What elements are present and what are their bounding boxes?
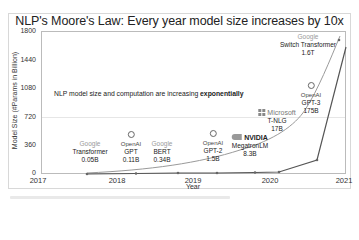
google-logo-icon: Google [280,33,336,41]
annotation-transformer: Google Transformer 0.05B [72,140,107,164]
annotation-gpt2: OpenAI GPT-2 1.5B [203,130,223,163]
nvidia-logo-icon [232,134,242,140]
annotation-bert: Google BERT 0.34B [152,140,173,164]
blurred-caption [10,196,230,199]
google-logo-icon: Google [152,140,173,148]
openai-logo-icon [209,130,216,137]
openai-logo-icon [127,131,134,138]
annotation-gpt: OpenAI GPT 0.11B [121,131,141,164]
annotation-tnlg: Microsoft T-NLG 17B [258,109,295,133]
microsoft-logo-icon [258,109,265,116]
openai-logo-icon [307,82,314,89]
google-logo-icon: Google [72,140,107,148]
annotation-switch-transformer: Google Switch Transformer 1.6T [280,33,336,57]
annotation-megatron: NVIDIA MegatronLM 8.3B [232,134,269,158]
exponential-note: NLP model size and computation are incre… [54,90,244,97]
annotation-gpt3: OpenAI GPT-3 175B [301,82,321,115]
